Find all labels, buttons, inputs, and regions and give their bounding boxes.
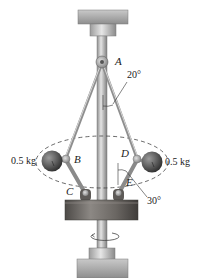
top-support [78, 10, 128, 36]
label-mass-left: 0.5 kg [11, 156, 36, 166]
label-point-A: A [115, 56, 122, 67]
label-point-C: C [66, 186, 73, 197]
bracket-E [113, 189, 124, 201]
label-angle-20: 20° [127, 70, 141, 80]
label-point-B: B [74, 154, 81, 165]
diagram-canvas [0, 0, 200, 278]
bottom-support [77, 248, 128, 278]
bracket-C [80, 189, 91, 201]
label-mass-right: 0.5 kg [165, 157, 190, 167]
governor-diagram: A 20° B D C E 30° 0.5 kg 0.5 kg [0, 0, 200, 278]
label-point-E: E [126, 177, 133, 188]
pivot-A [96, 56, 108, 68]
label-point-D: D [121, 148, 129, 159]
pivot-D [133, 155, 141, 163]
label-angle-30: 30° [147, 196, 161, 206]
pivot-B [62, 155, 70, 163]
